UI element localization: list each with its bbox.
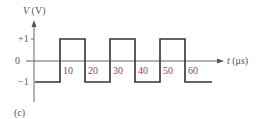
x-tick-30: 30 <box>113 65 123 76</box>
y-tick-zero: 0 <box>15 55 20 66</box>
square-wave-chart: V (V) t (μs) +1 0 −1 10 20 30 40 50 60 (… <box>0 0 264 119</box>
y-tick-minus1: −1 <box>18 76 29 87</box>
x-tick-50: 50 <box>163 65 173 76</box>
y-tick-plus1: +1 <box>18 33 29 44</box>
y-axis-label: V (V) <box>23 5 46 17</box>
y-axis-arrow-icon <box>32 20 37 27</box>
x-tick-20: 20 <box>88 65 98 76</box>
x-axis-arrow-icon <box>217 59 224 64</box>
x-tick-60: 60 <box>188 65 198 76</box>
x-tick-10: 10 <box>63 65 73 76</box>
panel-label: (c) <box>14 107 25 119</box>
x-tick-40: 40 <box>138 65 148 76</box>
x-axis-label: t (μs) <box>227 55 248 67</box>
